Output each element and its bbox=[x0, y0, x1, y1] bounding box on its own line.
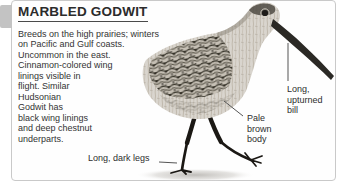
species-description: Breeds on the high prairies; winters on … bbox=[18, 29, 188, 144]
callout-label-legs: Long, dark legs bbox=[88, 153, 150, 164]
species-title: MARBLED GODWIT bbox=[18, 4, 148, 22]
callout-label-bill: Long, upturned bill bbox=[287, 84, 323, 116]
callout-label-body: Pale brown body bbox=[247, 113, 272, 145]
page-edge-tab bbox=[0, 5, 12, 28]
